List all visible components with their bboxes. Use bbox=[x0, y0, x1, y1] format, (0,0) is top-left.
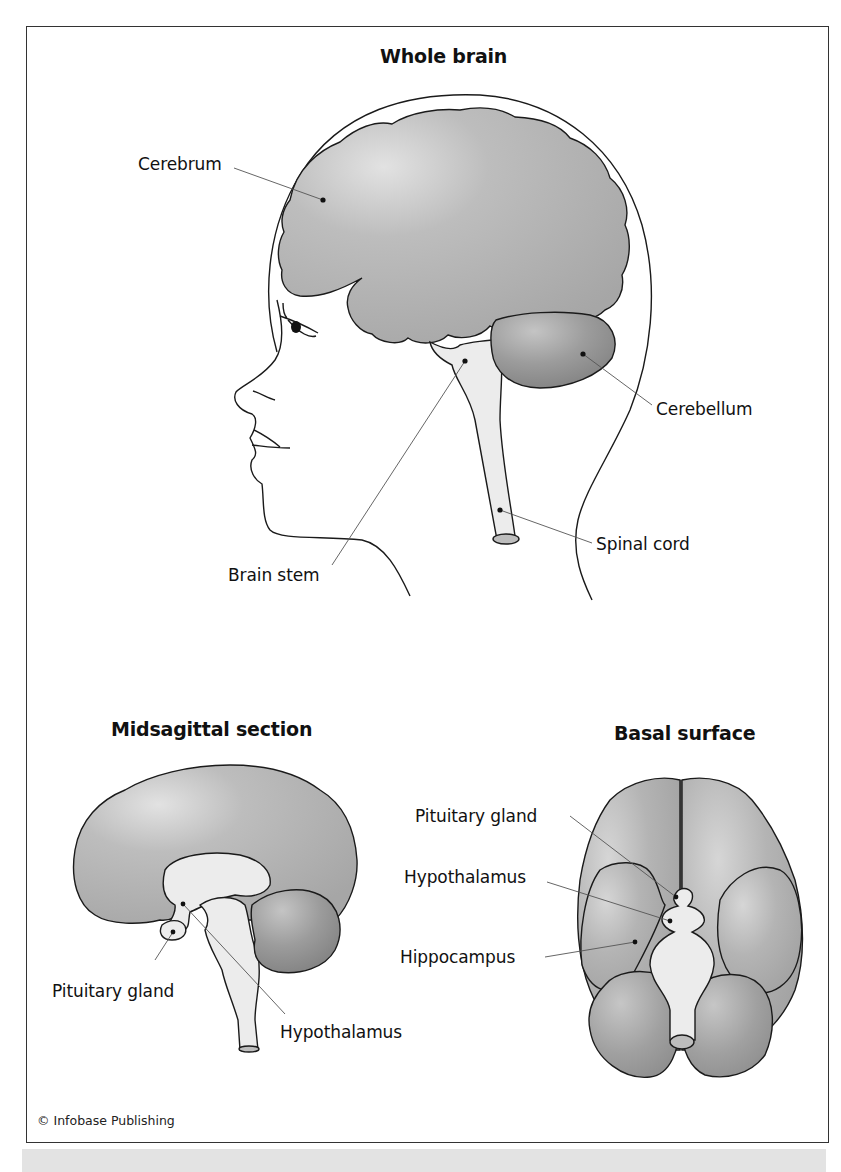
label-spinal-cord: Spinal cord bbox=[596, 534, 690, 554]
title-whole-brain: Whole brain bbox=[380, 45, 507, 67]
label-basal-pituitary-gland: Pituitary gland bbox=[415, 806, 537, 826]
title-midsagittal-section: Midsagittal section bbox=[111, 718, 312, 740]
label-mid-pituitary-gland: Pituitary gland bbox=[52, 981, 174, 1001]
label-basal-hypothalamus: Hypothalamus bbox=[404, 867, 526, 887]
face-profile bbox=[235, 300, 410, 596]
label-brain-stem: Brain stem bbox=[228, 565, 320, 585]
cerebrum-shape bbox=[278, 108, 629, 343]
basal-diagram bbox=[545, 778, 803, 1077]
mid-cerebellum-shape bbox=[251, 890, 340, 973]
label-cerebrum: Cerebrum bbox=[138, 154, 222, 174]
credit-text: © Infobase Publishing bbox=[37, 1113, 175, 1128]
whole-brain-diagram bbox=[234, 95, 652, 600]
label-basal-hippocampus: Hippocampus bbox=[400, 947, 515, 967]
label-cerebellum: Cerebellum bbox=[656, 399, 752, 419]
midsagittal-diagram bbox=[74, 765, 358, 1052]
label-mid-hypothalamus: Hypothalamus bbox=[280, 1022, 402, 1042]
title-basal-surface: Basal surface bbox=[614, 722, 755, 744]
cerebellum-shape bbox=[491, 312, 615, 388]
